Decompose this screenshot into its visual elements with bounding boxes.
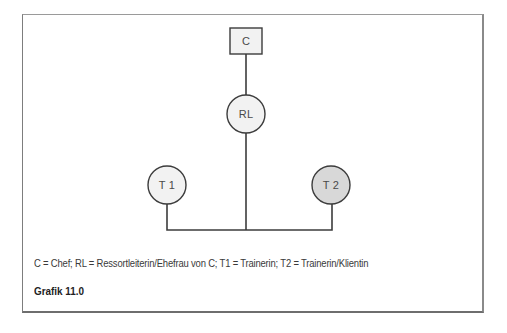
node-t1-label: T 1 [159,179,176,191]
node-c-label: C [242,35,250,47]
node-t2: T 2 [312,166,350,204]
edge-t1-t2-bar [167,204,332,230]
node-rl-label: RL [239,108,254,120]
node-t1: T 1 [148,166,186,204]
legend-caption: C = Chef; RL = Ressortleiterin/Ehefrau v… [34,257,368,269]
figure-title: Grafik 11.0 [34,285,84,297]
node-rl: RL [227,95,265,133]
node-c: C [230,28,262,54]
relationship-diagram: C RL T 1 T 2 [0,0,507,333]
connectors [167,54,332,230]
node-t2-label: T 2 [323,179,340,191]
